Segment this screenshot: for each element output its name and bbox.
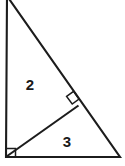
triangle-diagram-svg: 2 3: [0, 0, 125, 166]
geometry-figure: 2 3: [0, 0, 125, 166]
label-cevian-3: 3: [63, 133, 71, 150]
label-leg-2: 2: [26, 76, 34, 93]
